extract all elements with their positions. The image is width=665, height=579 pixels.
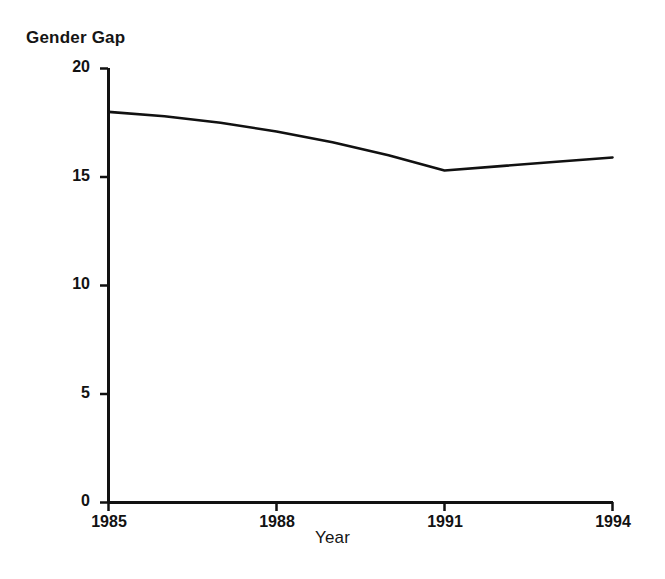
y-tick-label-10: 10 [44,275,90,293]
y-tick-label-0: 0 [44,492,90,510]
chart-container: Gender Gap 20 15 10 5 0 1985 1988 1991 1… [0,0,665,579]
y-tick-label-15: 15 [44,167,90,185]
y-axis-ticks [100,69,108,503]
y-tick-label-20: 20 [44,58,90,76]
x-axis-title: Year [0,528,665,548]
y-tick-label-5: 5 [44,384,90,402]
data-series-line [109,112,613,171]
axes-group [108,68,613,503]
line-chart-plot [0,0,665,579]
